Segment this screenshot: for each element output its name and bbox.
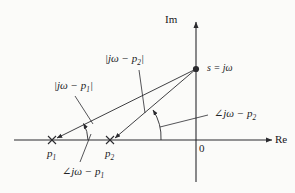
leader-mag-p1: [75, 96, 93, 124]
point-s-marker: [193, 66, 199, 72]
angle-label-p1-sub: 1: [100, 172, 104, 180]
pole-label-p1: p1: [47, 148, 56, 162]
angle-arc-p1: [84, 124, 89, 141]
angle-label-p1: ∠jω − p1: [62, 166, 104, 180]
origin-label: 0: [199, 143, 205, 154]
diagram-canvas: [0, 0, 295, 193]
magnitude-label-p1: |jω − p1|: [54, 80, 93, 94]
magnitude-label-p1-text: |jω − p: [54, 79, 86, 91]
leader-ang-p2: [160, 115, 208, 127]
real-axis-label: Re: [275, 134, 287, 145]
pole-label-p2-sub: 2: [111, 154, 115, 162]
magnitude-label-p2: |jω − p2|: [105, 53, 144, 67]
angle-symbol-p1: ∠: [62, 165, 71, 177]
angle-label-p1-text: jω − p: [71, 165, 100, 177]
angle-arc-p2: [153, 110, 161, 140]
point-s-label: s = jω: [207, 63, 232, 73]
angle-label-p2: ∠jω − p2: [214, 108, 256, 122]
imaginary-axis-label: Im: [165, 14, 177, 25]
leader-ang-p1: [80, 134, 91, 162]
pole-label-p2: p2: [105, 148, 114, 162]
magnitude-label-p1-suffix: |: [90, 79, 93, 91]
angle-label-p2-sub: 2: [252, 114, 256, 122]
leader-mag-p2: [139, 70, 145, 113]
angle-symbol-p2: ∠: [214, 107, 223, 119]
pole-label-p1-sub: 1: [53, 154, 57, 162]
s-plane-diagram: Im Re 0 s = jω p1 p2 |jω − p1| |jω − p2|…: [0, 0, 295, 193]
angle-label-p2-text: jω − p: [223, 107, 252, 119]
magnitude-label-p2-suffix: |: [141, 52, 144, 64]
magnitude-label-p2-text: |jω − p: [105, 52, 137, 64]
